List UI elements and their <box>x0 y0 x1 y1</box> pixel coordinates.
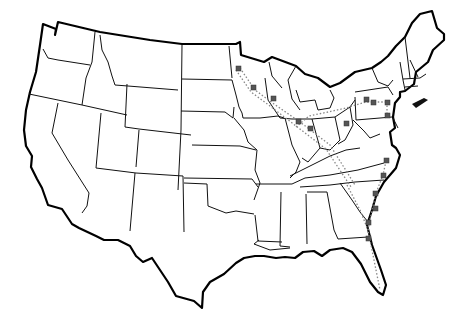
marker-icon[interactable] <box>385 113 390 118</box>
marker-icon[interactable] <box>271 96 276 101</box>
marker-icon[interactable] <box>373 191 378 196</box>
route-ohio-pa <box>296 102 387 127</box>
marker-icon[interactable] <box>381 173 386 178</box>
marker-icon[interactable] <box>344 121 349 126</box>
marker-icon[interactable] <box>366 220 371 225</box>
marker-icon[interactable] <box>236 66 241 71</box>
long-island <box>412 98 428 108</box>
marker-icon[interactable] <box>384 158 389 163</box>
marker-icon[interactable] <box>366 236 371 241</box>
marker-icon[interactable] <box>385 100 390 105</box>
marker-icon[interactable] <box>308 126 313 131</box>
marker-icon[interactable] <box>371 100 376 105</box>
route-markers <box>236 66 390 241</box>
national-border <box>24 11 444 308</box>
marker-icon[interactable] <box>364 97 369 102</box>
state-lines <box>29 32 426 250</box>
us-map-svg <box>0 0 466 320</box>
marker-icon[interactable] <box>251 85 256 90</box>
us-map <box>0 0 466 320</box>
marker-icon[interactable] <box>373 206 378 211</box>
marker-icon[interactable] <box>296 119 301 124</box>
